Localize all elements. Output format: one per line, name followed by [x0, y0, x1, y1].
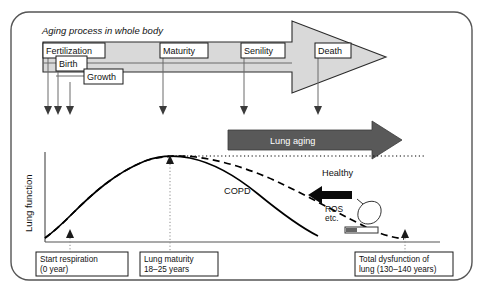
copd-label: COPD: [224, 186, 251, 196]
callout-lung-maturity: Lung maturity 18–25 years: [140, 252, 218, 276]
stage-arrowheads: [44, 106, 322, 115]
callout-start-respiration: Start respiration (0 year): [36, 252, 128, 276]
axis-up-markers: [66, 155, 409, 238]
svg-text:Senility: Senility: [244, 46, 274, 56]
y-axis-label: Lung function: [23, 174, 34, 232]
svg-text:Start respiration: Start respiration: [40, 255, 98, 264]
svg-text:Lung maturity: Lung maturity: [144, 255, 195, 264]
copd-curve: [45, 156, 318, 238]
figure-title: Aging process in whole body: [41, 25, 164, 36]
stage-box-growth: Growth: [84, 69, 123, 84]
stage-box-senility: Senility: [241, 43, 285, 58]
stage-box-birth: Birth: [56, 56, 87, 71]
gauge-bar-icon: [345, 227, 378, 233]
svg-text:Birth: Birth: [59, 59, 78, 69]
svg-text:(0 year): (0 year): [40, 265, 68, 274]
svg-text:lung (130–140 years): lung (130–140 years): [359, 265, 437, 274]
svg-text:Death: Death: [318, 46, 342, 56]
lung-aging-label: Lung aging: [270, 136, 315, 146]
lung-outline-icon: [357, 199, 381, 224]
lung-aging-diagram: Aging process in whole body: [0, 0, 483, 293]
svg-text:18–25 years: 18–25 years: [144, 265, 189, 274]
svg-text:Fertilization: Fertilization: [46, 46, 92, 56]
callout-total-dysfunction: Total dysfunction of lung (130–140 years…: [355, 252, 453, 276]
svg-text:Total dysfunction of: Total dysfunction of: [359, 255, 430, 264]
ros-label-line2: etc.: [325, 213, 339, 223]
ros-left-arrow: [308, 186, 352, 204]
stage-box-death: Death: [315, 43, 351, 58]
svg-text:Maturity: Maturity: [163, 46, 196, 56]
healthy-label: Healthy: [322, 168, 354, 178]
svg-text:Growth: Growth: [87, 72, 116, 82]
callout-leader-lines: [70, 164, 405, 252]
stage-box-maturity: Maturity: [160, 43, 208, 58]
